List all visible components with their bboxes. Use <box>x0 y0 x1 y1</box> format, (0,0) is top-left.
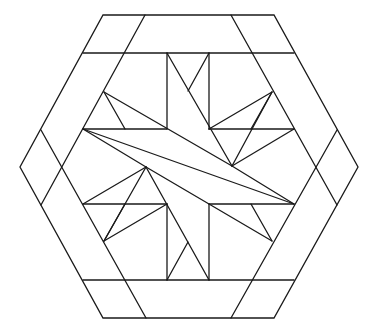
quilt-diagram <box>0 0 373 333</box>
quilt-block-drawing <box>0 0 373 333</box>
